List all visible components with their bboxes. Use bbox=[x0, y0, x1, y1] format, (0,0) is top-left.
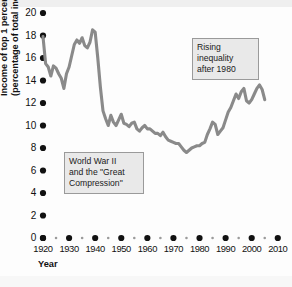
x-axis-tick-dot bbox=[223, 235, 229, 241]
x-axis-tick-dot bbox=[170, 235, 176, 241]
annotation-ww2-line2: and the "Great bbox=[69, 167, 139, 178]
x-axis-tick-dot bbox=[196, 235, 202, 241]
x-axis-minor-dot bbox=[159, 237, 162, 240]
chart-figure: Income of top 1 percent (percentage of t… bbox=[0, 0, 292, 287]
x-axis-minor-dot bbox=[81, 237, 84, 240]
x-axis-minor-dot bbox=[211, 237, 214, 240]
y-axis-tick-dot bbox=[40, 145, 46, 151]
annotation-ww2-line3: Compression" bbox=[69, 178, 139, 189]
x-axis-tick-dot bbox=[40, 235, 46, 241]
y-axis-tick-dot bbox=[40, 77, 46, 83]
y-axis-tick-label-12: 12 bbox=[16, 97, 36, 108]
annotation-world-war-two: World War II and the "Great Compression" bbox=[64, 152, 144, 194]
x-axis-tick-dot bbox=[249, 235, 255, 241]
y-axis-tick-dot bbox=[40, 100, 46, 106]
x-axis-dots bbox=[40, 235, 281, 241]
y-axis-tick-label-10: 10 bbox=[16, 120, 36, 131]
y-axis-tick-label-6: 6 bbox=[16, 165, 36, 176]
annotation-rising-inequality: Rising inequality after 1980 bbox=[192, 38, 259, 80]
x-axis-minor-dot bbox=[185, 237, 188, 240]
y-axis-tick-label-20: 20 bbox=[16, 7, 36, 18]
x-axis-tick-dot bbox=[275, 235, 281, 241]
y-axis-tick-label-4: 4 bbox=[16, 187, 36, 198]
annotation-ww2-line1: World War II bbox=[69, 156, 139, 167]
x-axis-tick-dot bbox=[144, 235, 150, 241]
y-axis-tick-label-18: 18 bbox=[16, 30, 36, 41]
y-axis-tick-dot bbox=[40, 167, 46, 173]
annotation-rising-line1: Rising bbox=[197, 42, 254, 53]
y-axis-tick-dot bbox=[40, 190, 46, 196]
x-axis-minor-dot bbox=[263, 237, 266, 240]
x-axis-minor-dot bbox=[107, 237, 110, 240]
y-axis-tick-label-14: 14 bbox=[16, 75, 36, 86]
y-axis-tick-label-16: 16 bbox=[16, 52, 36, 63]
y-axis-tick-dot bbox=[40, 122, 46, 128]
y-axis-tick-dot bbox=[40, 212, 46, 218]
annotation-rising-line2: inequality bbox=[197, 53, 254, 64]
x-axis-minor-dot bbox=[55, 237, 58, 240]
x-axis-tick-dot bbox=[66, 235, 72, 241]
y-axis-tick-dot bbox=[40, 10, 46, 16]
annotation-rising-line3: after 1980 bbox=[197, 64, 254, 75]
x-axis-minor-dot bbox=[237, 237, 240, 240]
y-axis-tick-label-0: 0 bbox=[16, 232, 36, 243]
x-axis-minor-dot bbox=[133, 237, 136, 240]
y-axis-tick-label-2: 2 bbox=[16, 210, 36, 221]
y-axis-tick-label-8: 8 bbox=[16, 142, 36, 153]
x-axis-tick-dot bbox=[92, 235, 98, 241]
x-axis-tick-dot bbox=[118, 235, 124, 241]
x-axis-tick-label-2010: 2010 bbox=[263, 243, 292, 254]
